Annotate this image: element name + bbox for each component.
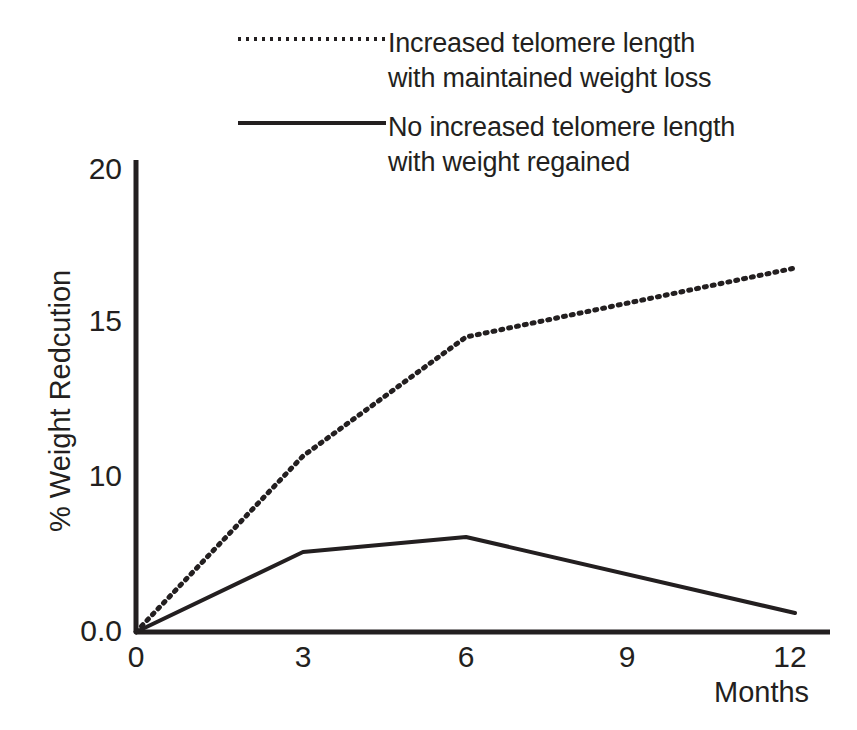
x-tick-label-12: 12 [760, 640, 820, 674]
x-tick-label-9: 9 [597, 640, 657, 674]
x-axis-title: Months [714, 676, 809, 709]
x-tick-label-6: 6 [436, 640, 496, 674]
x-tick-label-3: 3 [273, 640, 333, 674]
chart-canvas [0, 0, 857, 730]
series-line-weight-regained [136, 537, 795, 632]
y-axis-title: % Weight Redcution [44, 270, 77, 532]
series-line-maintained-weight-loss [136, 268, 795, 632]
y-tick-label-20: 20 [44, 152, 122, 186]
chart-figure: Increased telomere length with maintaine… [0, 0, 857, 730]
x-tick-label-0: 0 [106, 640, 166, 674]
